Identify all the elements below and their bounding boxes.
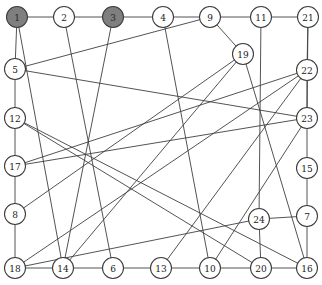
node-circle[interactable]: [103, 258, 124, 279]
graph-edge: [165, 27, 208, 257]
graph-node-11[interactable]: 11: [251, 7, 272, 28]
graph-edge: [25, 120, 296, 165]
graph-node-4[interactable]: 4: [153, 7, 174, 28]
node-circle[interactable]: [200, 258, 221, 279]
node-circle[interactable]: [251, 258, 272, 279]
node-circle[interactable]: [7, 7, 28, 28]
graph-node-19[interactable]: 19: [233, 44, 254, 65]
graph-node-15[interactable]: 15: [297, 158, 318, 179]
graph-node-23[interactable]: 23: [297, 108, 318, 129]
graph-edge: [25, 73, 297, 162]
node-circle[interactable]: [153, 7, 174, 28]
node-circle[interactable]: [151, 258, 172, 279]
node-circle[interactable]: [297, 158, 318, 179]
node-circle[interactable]: [103, 7, 124, 28]
graph-node-2[interactable]: 2: [54, 7, 75, 28]
graph-edge: [15, 27, 16, 58]
node-circle[interactable]: [297, 206, 318, 227]
graph-figure: 123491121195221223171582471814613102016: [0, 0, 322, 285]
graph-node-13[interactable]: 13: [151, 258, 172, 279]
graph-edge: [216, 127, 302, 259]
graph-node-1[interactable]: 1: [7, 7, 28, 28]
node-circle[interactable]: [200, 7, 221, 28]
graph-node-18[interactable]: 18: [5, 258, 26, 279]
graph-node-12[interactable]: 12: [5, 108, 26, 129]
graph-node-6[interactable]: 6: [103, 258, 124, 279]
graph-edge: [24, 76, 299, 262]
graph-edge: [217, 25, 236, 46]
graph-edge: [259, 28, 261, 209]
graph-node-7[interactable]: 7: [297, 206, 318, 227]
graph-node-16[interactable]: 16: [297, 258, 318, 279]
graph-node-10[interactable]: 10: [200, 258, 221, 279]
node-circle[interactable]: [251, 7, 272, 28]
node-circle[interactable]: [249, 209, 270, 230]
graph-node-3[interactable]: 3: [103, 7, 124, 28]
node-circle[interactable]: [54, 7, 75, 28]
graph-canvas: 123491121195221223171582471814613102016: [0, 0, 322, 285]
graph-edge: [24, 123, 297, 263]
node-circle[interactable]: [5, 108, 26, 129]
node-circle[interactable]: [5, 59, 26, 80]
node-circle[interactable]: [297, 108, 318, 129]
edge-layer: [15, 17, 308, 268]
graph-edge: [25, 71, 296, 117]
graph-edge: [24, 60, 235, 208]
node-circle[interactable]: [297, 258, 318, 279]
node-circle[interactable]: [233, 44, 254, 65]
graph-node-22[interactable]: 22: [297, 60, 318, 81]
graph-node-21[interactable]: 21: [298, 7, 319, 28]
graph-node-17[interactable]: 17: [5, 156, 26, 177]
graph-node-20[interactable]: 20: [251, 258, 272, 279]
node-layer: 123491121195221223171582471814613102016: [5, 7, 319, 279]
graph-node-24[interactable]: 24: [249, 209, 270, 230]
node-circle[interactable]: [53, 258, 74, 279]
node-circle[interactable]: [297, 60, 318, 81]
node-circle[interactable]: [5, 204, 26, 225]
node-circle[interactable]: [298, 7, 319, 28]
graph-node-14[interactable]: 14: [53, 258, 74, 279]
graph-node-5[interactable]: 5: [5, 59, 26, 80]
graph-node-9[interactable]: 9: [200, 7, 221, 28]
graph-node-8[interactable]: 8: [5, 204, 26, 225]
node-circle[interactable]: [5, 156, 26, 177]
node-circle[interactable]: [5, 258, 26, 279]
